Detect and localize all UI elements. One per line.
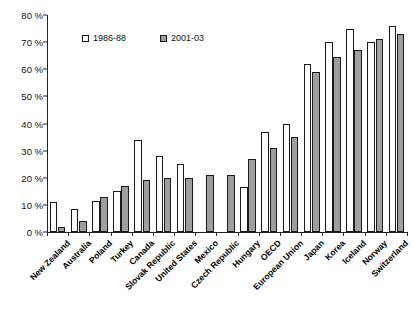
- bar-chart: 0 %10 %20 %30 %40 %50 %60 %70 %80 % New …: [0, 0, 415, 310]
- legend-label: 1986-88: [93, 33, 126, 43]
- legend-item: 2001-03: [160, 33, 204, 43]
- gray-square-icon: [160, 35, 167, 42]
- x-axis-labels: New ZealandAustraliaPolandTurkeyCanadaSl…: [0, 0, 415, 310]
- legend-label: 2001-03: [171, 33, 204, 43]
- white-square-icon: [82, 35, 89, 42]
- x-tick-label: Japan: [301, 238, 326, 263]
- chart-legend: 1986-882001-03: [82, 33, 204, 43]
- legend-item: 1986-88: [82, 33, 126, 43]
